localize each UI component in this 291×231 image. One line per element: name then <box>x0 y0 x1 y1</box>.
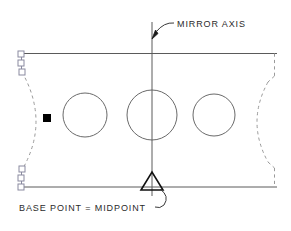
base-point-label: BASE POINT = MIDPOINT <box>19 203 146 213</box>
base-point-grip-marker[interactable] <box>44 115 51 122</box>
grip-square[interactable] <box>19 69 25 75</box>
right-concave-arc <box>257 82 268 162</box>
grip-square[interactable] <box>18 175 24 181</box>
hole-circle-left <box>63 93 107 137</box>
base-point-leader-curve <box>155 189 166 208</box>
grip-group-top-left <box>18 51 25 75</box>
grip-group-bottom-left <box>18 166 25 190</box>
mirror-axis-leader-curve <box>156 23 174 32</box>
grip-square[interactable] <box>18 184 24 190</box>
grip-square[interactable] <box>18 60 24 66</box>
left-concave-arc <box>22 72 36 170</box>
hole-circle-right <box>193 94 235 136</box>
grip-square[interactable] <box>19 166 25 172</box>
mirror-axis-label: MIRROR AXIS <box>177 19 246 29</box>
right-edge-bottom-jog <box>268 162 275 168</box>
grip-square[interactable] <box>18 51 24 57</box>
right-edge-top-jog <box>268 76 275 82</box>
cad-drawing-canvas: MIRROR AXIS BASE POINT = MIDPOINT <box>0 0 291 231</box>
